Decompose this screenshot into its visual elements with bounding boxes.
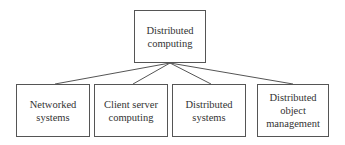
child-node-client-server-computing: Client server computing [94,84,168,137]
child-node-distributed-systems: Distributed systems [172,84,246,137]
child-node-distributed-object-management: Distributed object management [257,84,329,137]
root-node-label: Distributed computing [146,24,193,50]
child-node-label: Distributed object management [266,91,320,130]
child-node-networked-systems: Networked systems [16,84,90,137]
connector-distributed-object-management [170,63,293,84]
connector-networked-systems [55,63,170,84]
child-node-label: Networked systems [30,98,77,124]
child-node-label: Distributed systems [185,98,232,124]
root-node-distributed-computing: Distributed computing [134,10,206,63]
child-node-label: Client server computing [104,98,158,124]
